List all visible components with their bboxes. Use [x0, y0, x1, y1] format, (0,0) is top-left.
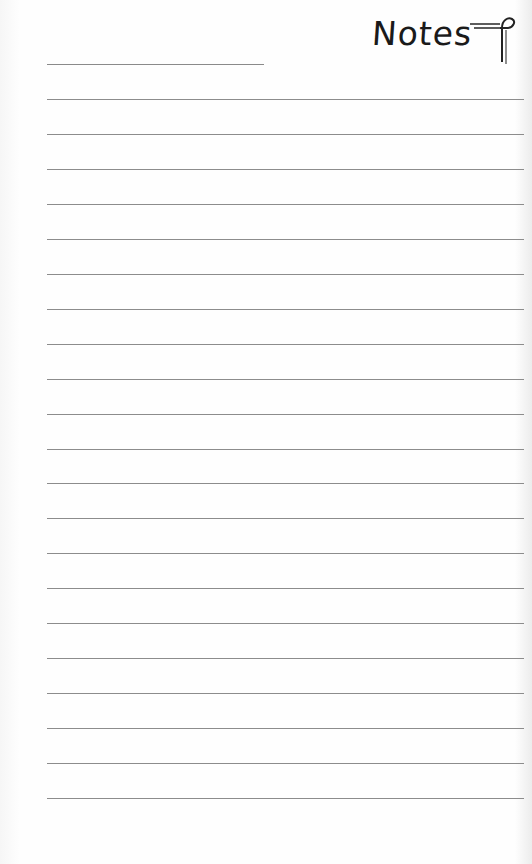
- ruled-line[interactable]: [47, 134, 524, 135]
- ruled-line[interactable]: [47, 169, 524, 170]
- name-line[interactable]: [47, 64, 264, 65]
- pilcrow-icon: [466, 14, 522, 68]
- ruled-line[interactable]: [47, 344, 524, 345]
- ruled-line[interactable]: [47, 449, 524, 450]
- ruled-line[interactable]: [47, 798, 524, 799]
- ruled-line[interactable]: [47, 483, 524, 484]
- ruled-line[interactable]: [47, 309, 524, 310]
- page-title: Notes: [371, 14, 474, 53]
- ruled-line[interactable]: [47, 623, 524, 624]
- ruled-line[interactable]: [47, 693, 524, 694]
- ruled-line[interactable]: [47, 658, 524, 659]
- ruled-line[interactable]: [47, 414, 524, 415]
- ruled-line[interactable]: [47, 518, 524, 519]
- ruled-line[interactable]: [47, 763, 524, 764]
- ruled-line[interactable]: [47, 99, 524, 100]
- ruled-line[interactable]: [47, 274, 524, 275]
- ruled-line[interactable]: [47, 379, 524, 380]
- ruled-line[interactable]: [47, 728, 524, 729]
- notes-page: Notes: [0, 0, 532, 864]
- ruled-line[interactable]: [47, 239, 524, 240]
- ruled-line[interactable]: [47, 204, 524, 205]
- ruled-line[interactable]: [47, 553, 524, 554]
- ruled-line[interactable]: [47, 588, 524, 589]
